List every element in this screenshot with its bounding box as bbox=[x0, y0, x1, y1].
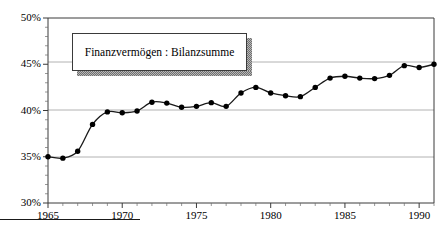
x-axis-ticks bbox=[48, 203, 434, 208]
x-tick-label: 1990 bbox=[399, 210, 439, 221]
y-tick-label: 45% bbox=[21, 58, 41, 69]
data-point bbox=[105, 109, 110, 114]
legend-shadow-bottom bbox=[77, 71, 252, 76]
data-point bbox=[164, 100, 169, 105]
data-point bbox=[357, 75, 362, 80]
data-point bbox=[149, 99, 154, 104]
data-point bbox=[372, 76, 377, 81]
data-point bbox=[134, 108, 139, 113]
data-point bbox=[402, 63, 407, 68]
y-tick-label: 35% bbox=[21, 151, 41, 162]
data-point bbox=[179, 105, 184, 110]
x-tick-label: 1985 bbox=[325, 210, 365, 221]
data-point bbox=[342, 74, 347, 79]
y-tick-label: 50% bbox=[21, 12, 41, 23]
data-point bbox=[223, 104, 228, 109]
footer-rule bbox=[0, 219, 140, 220]
data-point bbox=[238, 90, 243, 95]
data-point bbox=[431, 62, 436, 67]
data-point bbox=[75, 149, 80, 154]
data-point bbox=[268, 90, 273, 95]
data-point bbox=[416, 65, 421, 70]
legend-label: Finanzvermögen : Bilanzsumme bbox=[85, 46, 234, 58]
plot-gridlines bbox=[48, 62, 434, 157]
data-point bbox=[45, 154, 50, 159]
x-tick-label: 1975 bbox=[176, 210, 216, 221]
data-point bbox=[60, 155, 65, 160]
data-point bbox=[387, 73, 392, 78]
y-tick-label: 40% bbox=[21, 105, 41, 116]
series-markers bbox=[45, 62, 436, 161]
data-point bbox=[253, 85, 258, 90]
data-point bbox=[298, 94, 303, 99]
data-point bbox=[209, 100, 214, 105]
data-point bbox=[327, 75, 332, 80]
x-tick-label: 1980 bbox=[251, 210, 291, 221]
data-point bbox=[313, 85, 318, 90]
y-tick-label: 30% bbox=[21, 197, 41, 208]
legend-box: Finanzvermögen : Bilanzsumme bbox=[72, 33, 247, 71]
data-point bbox=[120, 110, 125, 115]
data-point bbox=[194, 104, 199, 109]
chart-figure: 30%35%40%45%50% 196519701975198019851990… bbox=[0, 0, 448, 232]
data-point bbox=[283, 93, 288, 98]
y-axis-ticks bbox=[43, 18, 48, 203]
data-point bbox=[90, 122, 95, 127]
